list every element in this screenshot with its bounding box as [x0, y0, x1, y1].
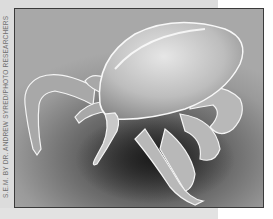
photo-credit: S.E.M. by Dr. Andrew Syred/Photo Researc… [2, 8, 14, 198]
micrograph-photo [14, 8, 264, 208]
tick-illustration [15, 9, 264, 208]
photo-backing-bottom [0, 208, 218, 219]
